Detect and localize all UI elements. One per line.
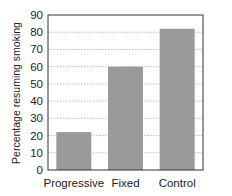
y-tick-label: 30 [30,112,43,124]
x-tick-label: Fixed [111,177,139,189]
bar-chart: 0102030405060708090 ProgressiveFixedCont… [0,0,232,196]
y-axis-label: Percentage resuming smoking [10,22,22,164]
y-tick-label: 70 [30,43,43,55]
y-tick-label: 80 [30,26,43,38]
bar-control [160,29,195,170]
bar-fixed [108,67,143,170]
y-tick-label: 20 [30,130,43,142]
x-tick-labels: ProgressiveFixedControl [43,177,195,189]
x-tick-label: Control [159,177,196,189]
bar-progressive [56,132,91,170]
y-tick-label: 10 [30,147,43,159]
x-tick-label: Progressive [43,177,104,189]
y-tick-label: 50 [30,78,43,90]
y-tick-label: 60 [30,61,43,73]
y-tick-label: 40 [30,95,43,107]
y-tick-labels: 0102030405060708090 [30,9,43,176]
y-tick-label: 90 [30,9,43,21]
bars [56,29,194,170]
y-tick-label: 0 [37,164,43,176]
